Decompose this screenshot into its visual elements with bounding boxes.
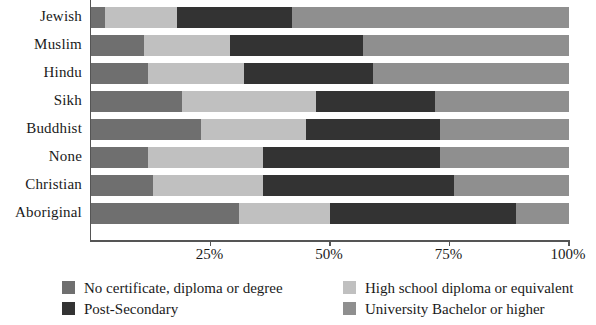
category-label-hindu: Hindu — [44, 65, 83, 80]
bar-segment[interactable] — [373, 63, 569, 84]
bar-segment[interactable] — [91, 7, 105, 28]
bar-segment[interactable] — [330, 203, 516, 224]
bar-segment[interactable] — [263, 147, 440, 168]
legend-item-label: No certificate, diploma or degree — [84, 280, 283, 296]
stacked-bar-chart: JewishMuslimHinduSikhBuddhistNoneChristi… — [0, 0, 596, 325]
bar-segment[interactable] — [201, 119, 306, 140]
x-axis-tick-label: 50% — [315, 246, 343, 262]
bar-segment[interactable] — [239, 203, 330, 224]
bars-area — [90, 0, 569, 240]
bar-segment[interactable] — [91, 175, 153, 196]
legend-item[interactable]: Post-Secondary — [62, 298, 283, 319]
bar-segment[interactable] — [363, 35, 569, 56]
legend-item-label: High school diploma or equivalent — [365, 280, 573, 296]
category-label-aboriginal: Aboriginal — [15, 205, 82, 220]
legend-swatch-icon — [62, 281, 75, 294]
legend-item[interactable]: University Bachelor or higher — [343, 298, 573, 319]
chart-legend: No certificate, diploma or degree Post-S… — [0, 277, 596, 323]
bar-segment[interactable] — [148, 63, 244, 84]
category-label-none: None — [49, 149, 82, 164]
bar-segment[interactable] — [91, 203, 239, 224]
bar-segment[interactable] — [230, 35, 364, 56]
legend-swatch-icon — [62, 302, 75, 315]
bar-segment[interactable] — [91, 147, 148, 168]
bar-segment[interactable] — [91, 63, 148, 84]
legend-column-right: High school diploma or equivalent Univer… — [343, 277, 573, 319]
x-axis-tick-label: 75% — [435, 246, 463, 262]
bar-segment[interactable] — [244, 63, 373, 84]
bar-segment[interactable] — [105, 7, 177, 28]
bar-row[interactable] — [91, 203, 569, 224]
bar-segment[interactable] — [440, 147, 569, 168]
bar-row[interactable] — [91, 63, 569, 84]
bar-segment[interactable] — [148, 147, 263, 168]
category-label-muslim: Muslim — [34, 37, 82, 52]
category-label-jewish: Jewish — [40, 9, 82, 24]
bar-segment[interactable] — [316, 91, 436, 112]
category-label-christian: Christian — [25, 177, 82, 192]
category-label-sikh: Sikh — [54, 93, 82, 108]
bar-row[interactable] — [91, 119, 569, 140]
legend-item-label: University Bachelor or higher — [365, 301, 545, 317]
bar-segment[interactable] — [91, 91, 182, 112]
legend-item[interactable]: High school diploma or equivalent — [343, 277, 573, 298]
bar-row[interactable] — [91, 175, 569, 196]
bar-segment[interactable] — [153, 175, 263, 196]
legend-item-label: Post-Secondary — [84, 301, 178, 317]
bar-segment[interactable] — [182, 91, 316, 112]
bar-row[interactable] — [91, 35, 569, 56]
plot-area: JewishMuslimHinduSikhBuddhistNoneChristi… — [0, 0, 596, 250]
legend-item[interactable]: No certificate, diploma or degree — [62, 277, 283, 298]
bar-segment[interactable] — [454, 175, 569, 196]
bar-row[interactable] — [91, 147, 569, 168]
x-axis-tick-label: 25% — [196, 246, 224, 262]
bar-segment[interactable] — [292, 7, 569, 28]
bar-row[interactable] — [91, 7, 569, 28]
bar-segment[interactable] — [177, 7, 292, 28]
x-axis-tick-label: 100% — [551, 246, 586, 262]
category-label-buddhist: Buddhist — [26, 121, 82, 136]
bar-segment[interactable] — [144, 35, 230, 56]
legend-swatch-icon — [343, 281, 356, 294]
bar-segment[interactable] — [263, 175, 454, 196]
bar-segment[interactable] — [306, 119, 440, 140]
bar-segment[interactable] — [435, 91, 569, 112]
bar-segment[interactable] — [91, 119, 201, 140]
category-axis-labels: JewishMuslimHinduSikhBuddhistNoneChristi… — [0, 0, 88, 240]
legend-column-left: No certificate, diploma or degree Post-S… — [62, 277, 283, 319]
bar-segment[interactable] — [440, 119, 569, 140]
legend-swatch-icon — [343, 302, 356, 315]
bar-row[interactable] — [91, 91, 569, 112]
bar-segment[interactable] — [516, 203, 569, 224]
bar-segment[interactable] — [91, 35, 144, 56]
